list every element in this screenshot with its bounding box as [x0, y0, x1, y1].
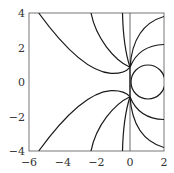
arc-left-outer-lower: [39, 91, 130, 151]
x-tick-neg2: −2: [88, 156, 104, 169]
arc-right-inner-upper: [130, 45, 164, 68]
y-tick-neg2: −2: [9, 111, 25, 124]
arc-family-chart: 4 2 0 −2 −4 −6 −4 −2 0 2: [0, 0, 174, 173]
arc-left-outer-upper: [39, 13, 130, 73]
y-tick-0: 0: [18, 76, 25, 89]
arc-right-outer-lower: [130, 97, 164, 148]
y-tick-4: 4: [18, 7, 25, 20]
circle-center-1-0: [131, 65, 165, 99]
arc-left-inner-lower: [123, 97, 131, 151]
arc-right-inner-lower: [130, 97, 164, 120]
y-tick-2: 2: [18, 42, 25, 55]
arc-left-inner-upper: [123, 13, 131, 67]
plot-area: [39, 13, 165, 151]
x-tick-neg6: −6: [21, 156, 37, 169]
arc-right-outer-upper: [130, 17, 164, 68]
x-tick-0: 0: [127, 156, 134, 169]
x-tick-neg4: −4: [55, 156, 71, 169]
x-tick-2: 2: [161, 156, 168, 169]
plot-frame: [29, 13, 164, 151]
